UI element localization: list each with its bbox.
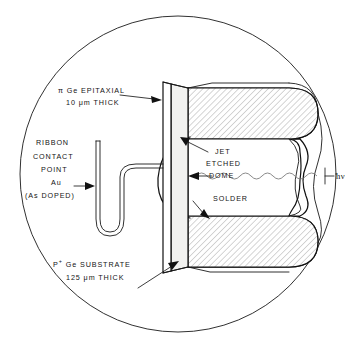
label-solder: SOLDER bbox=[213, 194, 248, 203]
p-plus-ge-substrate-face bbox=[171, 84, 188, 271]
label-dome-line3: DOME bbox=[209, 171, 234, 180]
label-epitaxial: π Ge EPITAXIAL 10 μm THICK bbox=[58, 86, 125, 107]
label-ribbon-line5: (As DOPED) bbox=[25, 191, 75, 200]
arrow-ribbon-leader bbox=[74, 182, 95, 190]
pi-ge-epitaxial-layer-face bbox=[163, 82, 171, 273]
label-substrate-line1: P+ Ge SUBSTRATE bbox=[53, 258, 131, 268]
label-epitaxial-line2: 10 μm THICK bbox=[66, 98, 119, 107]
arrow-substrate-leader bbox=[138, 261, 179, 288]
label-ribbon-contact: RIBBON CONTACT POINT Au (As DOPED) bbox=[25, 138, 75, 200]
device-cross-section-diagram: π Ge EPITAXIAL 10 μm THICK RIBBON CONTAC… bbox=[0, 0, 357, 348]
label-dome-line1: JET bbox=[215, 147, 230, 156]
upper-solder-block bbox=[188, 88, 318, 139]
label-substrate: P+ Ge SUBSTRATE 125 μm THICK bbox=[53, 258, 131, 281]
chip-right-profile bbox=[314, 113, 323, 243]
label-ribbon-line3: POINT bbox=[41, 165, 67, 174]
label-epitaxial-line1: π Ge EPITAXIAL bbox=[58, 86, 125, 95]
label-photon-text: hν bbox=[336, 171, 345, 181]
label-ribbon-line4: Au bbox=[51, 178, 62, 187]
label-dome-line2: ETCHED bbox=[206, 159, 241, 168]
lower-solder-block bbox=[188, 216, 318, 267]
arrow-epitaxial-leader bbox=[120, 95, 162, 103]
label-ribbon-line2: CONTACT bbox=[33, 152, 74, 161]
label-substrate-line2: 125 μm THICK bbox=[66, 273, 124, 282]
label-ribbon-line1: RIBBON bbox=[36, 138, 69, 147]
ribbon-contact-point bbox=[96, 141, 163, 236]
figure-root: π Ge EPITAXIAL 10 μm THICK RIBBON CONTAC… bbox=[0, 0, 357, 348]
label-solder-text: SOLDER bbox=[213, 194, 248, 203]
label-photon: hν bbox=[336, 171, 345, 181]
